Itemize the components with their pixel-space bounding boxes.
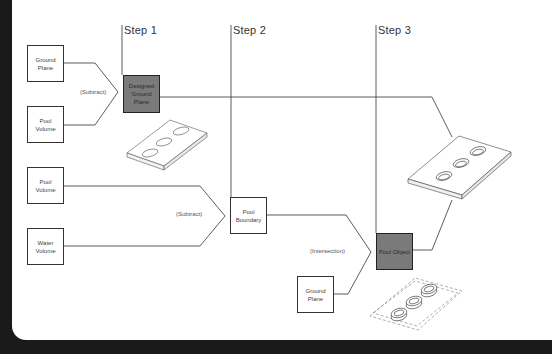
ground-plane-box: Ground Plane [27,45,64,82]
subtract-label-2: (Subtract) [176,211,202,217]
pool-object-box: Pool Object [376,233,413,270]
designed-ground-plane-box: Designed Ground Plane [123,75,160,113]
intersection-label: (Intersection) [310,248,345,254]
final-pool-plate-illustration [408,136,511,199]
water-volume-box: Water Volume [27,228,64,265]
step-1-label: Step 1 [124,24,157,36]
ground-plane-plate-illustration [127,120,207,170]
pool-volume-box: Pool Volume [27,106,64,143]
pool-object-illustration [370,278,462,330]
ground-plane-box-2: Ground Plane [297,276,334,313]
pool-volume-box-2: Pool Volume [27,167,64,204]
pool-boundary-box: Pool Boundary [230,197,267,234]
subtract-label-1: (Subtract) [80,89,106,95]
step-2-label: Step 2 [233,24,266,36]
step-3-label: Step 3 [378,24,411,36]
